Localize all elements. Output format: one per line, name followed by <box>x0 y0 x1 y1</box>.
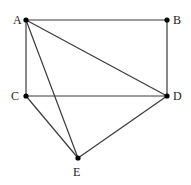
edge-CE <box>26 96 78 158</box>
label-E: E <box>73 165 80 179</box>
edge-DE <box>78 96 167 158</box>
graph-diagram: ABCDE <box>0 0 191 185</box>
edge-AE <box>26 20 78 158</box>
point-B <box>164 17 169 22</box>
label-C: C <box>11 89 19 103</box>
edge-AD <box>26 20 167 96</box>
points <box>23 17 169 160</box>
label-D: D <box>173 89 182 103</box>
label-B: B <box>173 13 181 27</box>
point-A <box>23 17 28 22</box>
label-A: A <box>13 13 22 27</box>
edges <box>26 20 167 158</box>
point-D <box>164 93 169 98</box>
point-C <box>23 93 28 98</box>
point-E <box>75 155 80 160</box>
